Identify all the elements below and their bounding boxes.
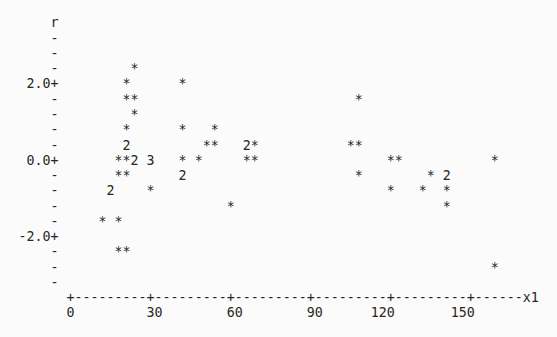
plot-row: - ** * <box>3 92 539 107</box>
residual-plot-region: r - - <box>0 0 557 337</box>
plot-row: - * * * <box>3 122 539 137</box>
plot-row: - * * <box>3 199 539 214</box>
plot-row: -2.0+ <box>3 229 539 244</box>
plot-row: - 2 * * * * <box>3 183 539 198</box>
plot-row: - <box>3 46 539 61</box>
plot-row: - <box>3 275 539 290</box>
plot-row: - <box>3 31 539 46</box>
plot-row: 0 30 60 90 120 150 <box>3 305 539 320</box>
plot-row: 2.0+ * * <box>3 76 539 91</box>
plot-row: - * * <box>3 214 539 229</box>
plot-row: - 2 ** 2* ** <box>3 138 539 153</box>
plot-row: - * <box>3 260 539 275</box>
plot-row: - ** 2 * * 2 <box>3 168 539 183</box>
plot-row: +---------+---------+---------+---------… <box>3 290 539 305</box>
plot-row: - * <box>3 61 539 76</box>
plot-row: - ** <box>3 244 539 259</box>
scatter-plot: r - - <box>3 15 539 320</box>
plot-row: - * <box>3 107 539 122</box>
plot-row: r <box>3 15 539 30</box>
plot-row: 0.0+ **2 3 * * ** ** * <box>3 153 539 168</box>
